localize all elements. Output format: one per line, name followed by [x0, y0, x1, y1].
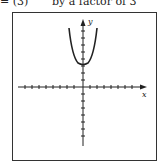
- y-axis: [81, 19, 86, 146]
- x-axis-arrow-icon: [140, 85, 147, 90]
- y-axis-label: y: [87, 17, 93, 26]
- x-axis-label: x: [142, 90, 147, 99]
- y-axis-arrow-icon: [81, 19, 86, 26]
- coordinate-graph: x y: [0, 0, 161, 165]
